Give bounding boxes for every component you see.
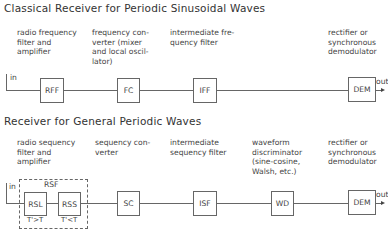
input-label: in [10,73,17,82]
input-line-general [6,183,7,204]
rff-description: radio frequency filter and amplifier [17,28,77,57]
rff-block: RFF [40,78,64,103]
rsl-condition: T'>T [27,216,43,224]
iff-description: intermediate fre- quency filter [170,28,234,47]
dem-block-general: DEM [348,190,376,215]
wd-block: WD [271,191,294,216]
input-line [6,74,7,91]
isf-description: intermediate sequency filter [170,138,227,157]
rsl-block: RSL [24,192,47,216]
input-label-general: in [9,182,16,191]
rss-block: RSS [58,192,81,216]
rsf-description: radio sequency filter and amplifier [17,138,75,167]
dem-description-general: rectifier or synchronous demodulator [328,138,377,167]
wd-description: waveform discriminator (sine-cosine, Wal… [252,138,302,176]
sc-block: SC [117,191,140,216]
output-label: out [376,77,388,86]
iff-block: IFF [193,78,217,103]
classical-receiver-title: Classical Receiver for Periodic Sinusoid… [4,2,265,14]
dem-block: DEM [348,77,376,102]
output-label-general: out [376,190,388,199]
output-arrow-icon [381,201,385,205]
dem-description: rectifier or synchronous demodulator [328,28,377,57]
fc-description: frequency con- verter (mixer and local o… [92,28,149,66]
rsf-group-label: RSF [44,180,58,189]
fc-block: FC [117,78,140,103]
isf-block: ISF [193,191,217,216]
sc-description: sequency con- verter [95,138,150,157]
general-receiver-title: Receiver for General Periodic Waves [4,115,201,127]
output-arrow-icon [381,88,385,92]
rss-condition: T'<T [61,216,77,224]
